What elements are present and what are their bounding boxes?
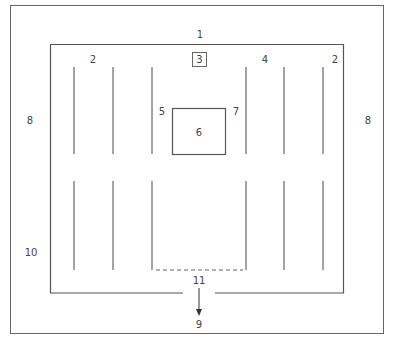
label-right-side: 8	[365, 115, 371, 126]
upper-shelves	[74, 67, 323, 154]
label-outer-top: 1	[197, 29, 203, 40]
label-upper-right-aisle: 2	[332, 54, 338, 65]
label-center-box: 3	[196, 54, 202, 65]
floor-plan-diagram: 1 2 3 4 2 5 6 7 8 8 10 11 9	[0, 0, 393, 340]
arrow-down-icon	[196, 309, 202, 316]
label-center-right: 7	[233, 106, 239, 117]
label-upper-left-aisle: 2	[90, 54, 96, 65]
lower-shelves	[74, 181, 323, 270]
label-upper-right-inner: 4	[262, 54, 268, 65]
inner-room-walls	[51, 45, 344, 294]
label-center: 6	[196, 127, 202, 138]
label-doorway: 11	[193, 275, 206, 286]
label-exit: 9	[196, 319, 202, 330]
label-lower-left: 10	[25, 247, 38, 258]
label-left-side: 8	[27, 115, 33, 126]
label-center-left: 5	[159, 106, 165, 117]
